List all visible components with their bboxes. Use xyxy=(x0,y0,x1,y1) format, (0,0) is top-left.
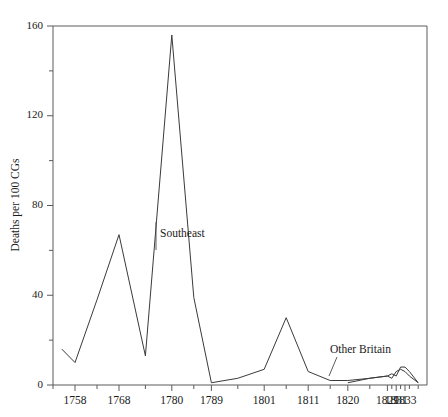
annotation-label-other-britain: Other Britain xyxy=(330,343,391,355)
y-axis-tick-labels: 04080120160 xyxy=(27,19,44,390)
x-tick-label: 1768 xyxy=(108,394,131,406)
x-tick-label: 1820 xyxy=(336,394,359,406)
x-axis-tick-marks xyxy=(53,385,418,391)
x-tick-label: 1789 xyxy=(200,394,223,406)
x-tick-label: 1801 xyxy=(253,394,276,406)
x-tick-label: 1780 xyxy=(160,394,183,406)
x-tick-label: 1811 xyxy=(297,394,320,406)
x-axis-tick-labels: 1758176817801789180118111820182918311833 xyxy=(64,394,417,406)
x-tick-label: 1833 xyxy=(394,394,417,406)
x-tick-label: 1758 xyxy=(64,394,87,406)
y-tick-label: 40 xyxy=(32,288,44,300)
axis-frame-polyline xyxy=(53,26,427,385)
other-britain-leader-line xyxy=(329,357,337,376)
data-series-group xyxy=(62,35,418,383)
y-tick-label: 80 xyxy=(32,198,44,210)
series-line-southeast xyxy=(62,35,418,383)
y-tick-label: 160 xyxy=(27,19,44,31)
y-axis-title: Deaths per 100 CGs xyxy=(9,158,22,251)
y-axis-tick-marks xyxy=(47,26,53,385)
chart-container: 04080120160 1758176817801789180118111820… xyxy=(0,0,448,417)
y-tick-label: 120 xyxy=(27,108,44,120)
annotation-leader-lines xyxy=(156,222,337,376)
y-tick-label: 0 xyxy=(38,378,44,390)
plot-frame xyxy=(53,26,427,385)
deaths-per-100-cgs-line-chart: 04080120160 1758176817801789180118111820… xyxy=(0,0,448,417)
annotation-label-southeast: Southeast xyxy=(160,227,206,239)
